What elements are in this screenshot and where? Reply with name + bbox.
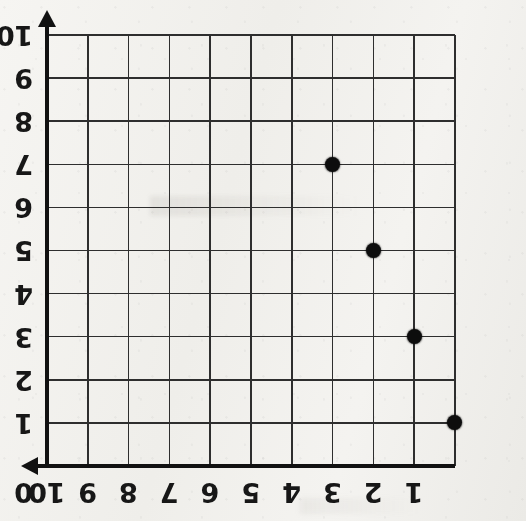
x-axis-line — [37, 464, 455, 467]
data-point — [366, 243, 381, 258]
x-axis-tick-label: 5 — [242, 479, 260, 506]
y-axis-tick-label: 1 — [15, 409, 33, 436]
x-axis-tick-label: 10 — [29, 479, 66, 506]
x-axis-tick-label: 9 — [79, 479, 97, 506]
x-axis-tick-label: 2 — [364, 479, 382, 506]
y-axis-line — [45, 25, 48, 466]
x-axis-tick-label: 1 — [405, 479, 423, 506]
y-axis-tick-label: 5 — [15, 237, 33, 264]
x-axis-tick-label: 4 — [283, 479, 301, 506]
y-axis-tick-label: 2 — [15, 366, 33, 393]
grid-line-horizontal — [47, 293, 455, 295]
grid-line-horizontal — [47, 120, 455, 122]
data-point — [325, 157, 340, 172]
coordinate-grid-figure: 01234567891012345678910 — [0, 0, 526, 521]
y-axis-tick-label: 4 — [15, 280, 33, 307]
grid-line-horizontal — [47, 336, 455, 338]
data-point — [407, 329, 422, 344]
x-axis-tick-label: 6 — [201, 479, 219, 506]
x-axis-tick-label: 3 — [323, 479, 341, 506]
grid-line-horizontal — [47, 77, 455, 79]
y-axis-tick-label: 3 — [15, 323, 33, 350]
data-point — [448, 415, 463, 430]
y-axis-tick-label: 7 — [15, 151, 33, 178]
y-axis-tick-label: 10 — [0, 22, 33, 49]
x-axis-arrow-icon — [21, 457, 38, 475]
grid-line-horizontal — [47, 207, 455, 209]
grid-line-horizontal — [47, 34, 455, 36]
y-axis-tick-label: 8 — [15, 108, 33, 135]
y-axis-tick-label: 6 — [15, 194, 33, 221]
y-axis-arrow-icon — [38, 10, 56, 27]
grid-line-horizontal — [47, 379, 455, 381]
grid-line-horizontal — [47, 422, 455, 424]
grid-line-horizontal — [47, 250, 455, 252]
x-axis-tick-label: 8 — [119, 479, 137, 506]
y-axis-tick-label: 9 — [15, 65, 33, 92]
x-axis-tick-label: 7 — [160, 479, 178, 506]
grid-line-horizontal — [47, 164, 455, 166]
